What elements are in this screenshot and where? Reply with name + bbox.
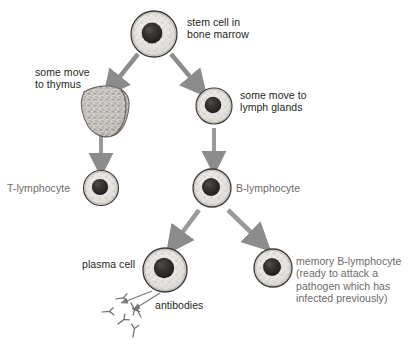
- label-memory-b-lymphocyte: memory B-lymphocyte (ready to attack a p…: [296, 255, 401, 305]
- cell-lymph-gland: [196, 88, 232, 124]
- arrow-stem-to-lymph: [171, 54, 197, 85]
- thymus-organ: [81, 86, 129, 137]
- label-antibodies: antibodies: [155, 299, 203, 311]
- label-b-lymphocyte: B-lymphocyte: [236, 182, 300, 194]
- antibody-glyph: [102, 308, 114, 316]
- diagram-canvas: stem cell in bone marrow some move to th…: [0, 0, 413, 352]
- cell-b-lymphocyte: [193, 169, 231, 207]
- cell-stem-cell: [131, 11, 177, 57]
- cell-t-lymphocyte: [84, 171, 119, 206]
- label-some-move-to-thymus: some move to thymus: [35, 66, 90, 91]
- arrow-b-to-memory-cell: [228, 210, 259, 240]
- antibody-glyph: [129, 324, 138, 338]
- cell-memory-b-lymphocyte: [254, 249, 292, 287]
- cell-plasma-cell: [143, 248, 187, 292]
- antibody-cluster: [102, 294, 144, 338]
- antibody-glyph: [116, 314, 129, 327]
- label-plasma-cell: plasma cell: [82, 258, 135, 270]
- label-t-lymphocyte: T-lymphocyte: [7, 182, 70, 194]
- arrow-b-to-plasma-cell: [176, 210, 199, 241]
- label-stem-cell: stem cell in bone marrow: [187, 16, 249, 41]
- label-some-move-to-lymph-glands: some move to lymph glands: [240, 89, 307, 114]
- arrow-stem-to-thymus: [113, 54, 138, 85]
